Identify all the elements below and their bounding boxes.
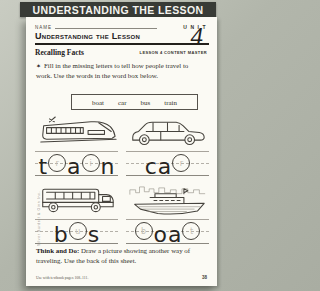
printed-letter: t [38,156,47,178]
word-box-word: train [164,99,177,106]
printed-letter: n [101,156,115,178]
letters-row: boat [126,218,209,246]
practice-lines: bus [35,218,118,246]
instruction-text: Fill in the missing letters to tell how … [36,62,188,79]
footer-note: Use with textbook pages 108–111. [36,276,88,280]
worksheet-page: NAME UNIT Understanding the Lesson 4 Rec… [26,17,217,286]
answer-circle: r [172,154,190,172]
answer-circle: u [69,222,87,240]
screenshot-root: { "banner": { "title": "UNDERSTANDING TH… [0,0,224,291]
practice-lines: train [35,150,118,178]
exercise-cell-train: train [35,112,118,178]
instruction: ✶Fill in the missing letters to tell how… [36,61,204,81]
letters-row: car [126,150,209,178]
name-row: NAME UNIT [35,24,209,30]
exercise-row: train [35,112,209,178]
section-title: Recalling Facts [35,48,84,57]
think-and-do-label: Think and Do: [36,247,79,254]
lesson-banner: UNDERSTANDING THE LESSON [20,2,216,17]
printed-letter: a [168,224,181,246]
answer-circle: i [82,154,100,172]
name-label: NAME [35,25,52,30]
printed-letter: o [154,224,167,246]
exercise-grid: train [35,112,209,248]
word-box-word: car [118,99,126,106]
printed-letter: c [145,156,157,178]
letters-row: bus [35,218,118,246]
exercise-cell-bus: bus [35,180,118,246]
printed-letter: a [158,156,171,178]
star-bullet-icon: ✶ [36,63,41,69]
exercise-row: bus [35,180,209,246]
page-number: 38 [202,275,207,280]
footer: Use with textbook pages 108–111. 38 [36,275,207,280]
word-box: boat car bus train [71,94,198,110]
unit-number: 4 [191,23,204,51]
train-illustration [35,112,118,149]
name-blank-line [55,24,157,29]
answer-circle: r [48,154,66,172]
word-box-word: bus [141,99,151,106]
answer-circle: t [182,222,200,240]
exercise-cell-boat: boat [126,180,209,246]
vertical-copyright-text: © Silver Burdett & Ginn Inc. [37,191,41,252]
printed-letter: a [67,156,80,178]
exercise-cell-car: car [126,112,209,178]
banner-title: UNDERSTANDING THE LESSON [33,4,204,16]
practice-lines: car [126,150,209,178]
page-title: Understanding the Lesson [35,31,140,41]
page-content: NAME UNIT Understanding the Lesson 4 Rec… [35,17,209,286]
printed-letter: s [88,224,99,246]
word-box-word: boat [92,99,104,106]
bus-illustration [35,180,118,217]
practice-lines: boat [126,218,209,246]
answer-circle: b [135,222,153,240]
think-and-do: Think and Do: Draw a picture showing ano… [36,246,208,265]
title-rule [35,43,209,45]
boat-illustration [126,180,209,217]
car-illustration [126,112,209,149]
letters-row: train [35,150,118,178]
printed-letter: b [54,224,68,246]
